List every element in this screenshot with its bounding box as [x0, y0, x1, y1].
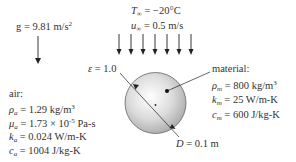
emissivity-label: ε = 1.0 — [88, 64, 116, 75]
diameter-label: D = 0.1 m — [176, 139, 219, 150]
material-title: material: — [212, 64, 249, 75]
emissivity-leader-line — [120, 73, 128, 82]
freestream-velocity-label: u∞ = 0.5 m/s — [131, 21, 183, 33]
material-specific-heat: cm = 600 J/kg-K — [212, 110, 280, 122]
gravity-arrow-icon — [35, 36, 41, 64]
air-conductivity: ka = 0.024 W/m-K — [9, 132, 86, 144]
gravity-label: g = 9.81 m/s2 — [16, 21, 72, 33]
material-density: ρm = 800 kg/m3 — [212, 80, 277, 93]
sphere-icon — [125, 73, 186, 134]
freestream-arrows-icon — [117, 34, 194, 55]
freestream-temperature-label: T∞ = −20°C — [131, 6, 181, 18]
air-density: ρa = 1.29 kg/m3 — [9, 104, 75, 117]
material-conductivity: km = 25 W/m-K — [212, 95, 278, 107]
air-specific-heat: ca = 1004 J/kg-K — [9, 146, 81, 158]
air-viscosity: μa = 1.73 × 10-5 Pa-s — [9, 118, 96, 131]
air-title: air: — [9, 89, 23, 100]
